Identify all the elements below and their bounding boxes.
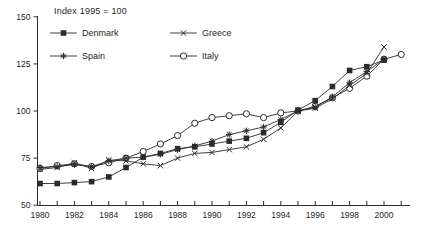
asterisk-icon bbox=[123, 155, 129, 161]
asterisk-icon bbox=[54, 163, 60, 169]
open-circle-icon bbox=[243, 111, 249, 117]
filled-square-icon bbox=[261, 130, 267, 136]
legend-item-denmark: Denmark bbox=[50, 28, 119, 38]
open-circle-icon bbox=[192, 120, 198, 126]
open-circle-icon bbox=[398, 51, 404, 57]
filled-square-icon bbox=[226, 138, 232, 144]
x-tick-label: 1982 bbox=[65, 210, 84, 220]
legend-item-spain: Spain bbox=[50, 51, 105, 61]
x-tick-label: 1980 bbox=[31, 210, 50, 220]
legend-item-greece: Greece bbox=[170, 28, 232, 38]
asterisk-icon bbox=[37, 164, 43, 170]
x-tick-label: 1984 bbox=[99, 210, 118, 220]
x-tick-label: 1998 bbox=[340, 210, 359, 220]
filled-square-icon bbox=[209, 141, 215, 147]
x-cross-icon bbox=[381, 44, 386, 49]
x-tick-label: 2000 bbox=[375, 210, 394, 220]
asterisk-icon bbox=[329, 94, 335, 100]
y-tick-label: 100 bbox=[16, 106, 30, 116]
x-tick-label: 1992 bbox=[237, 210, 256, 220]
filled-square-icon bbox=[244, 136, 250, 142]
filled-square-icon bbox=[312, 98, 318, 104]
asterisk-icon bbox=[71, 161, 77, 167]
asterisk-icon bbox=[226, 131, 232, 137]
filled-square-icon bbox=[158, 151, 164, 157]
asterisk-icon bbox=[88, 163, 94, 169]
filled-square-icon bbox=[37, 181, 43, 187]
series-spain bbox=[37, 56, 387, 171]
asterisk-icon bbox=[260, 124, 266, 130]
y-tick-label: 125 bbox=[16, 59, 30, 69]
asterisk-icon bbox=[346, 80, 352, 86]
x-tick-label: 1996 bbox=[306, 210, 325, 220]
x-cross-icon bbox=[175, 155, 180, 160]
filled-square-icon bbox=[123, 165, 129, 171]
asterisk-icon bbox=[60, 53, 66, 59]
y-tick-label: 50 bbox=[21, 200, 31, 210]
legend-item-italy: Italy bbox=[170, 51, 219, 61]
filled-square-icon bbox=[106, 174, 112, 180]
asterisk-icon bbox=[106, 158, 112, 164]
chart-canvas: 5075100125150198019821984198619881990199… bbox=[0, 0, 426, 236]
filled-square-icon bbox=[278, 120, 284, 126]
filled-square-icon bbox=[54, 181, 60, 187]
filled-square-icon bbox=[192, 144, 198, 150]
open-circle-icon bbox=[140, 148, 146, 154]
filled-square-icon bbox=[175, 146, 181, 152]
x-tick-label: 1988 bbox=[168, 210, 187, 220]
x-cross-icon bbox=[261, 137, 266, 142]
x-tick-label: 1994 bbox=[271, 210, 290, 220]
series-line bbox=[40, 47, 384, 169]
chart-container: 5075100125150198019821984198619881990199… bbox=[0, 0, 426, 236]
x-tick-label: 1990 bbox=[203, 210, 222, 220]
y-tick-label: 75 bbox=[21, 153, 31, 163]
filled-square-icon bbox=[330, 84, 336, 90]
x-tick-label: 1986 bbox=[134, 210, 153, 220]
filled-square-icon bbox=[140, 154, 146, 160]
open-circle-icon bbox=[180, 53, 186, 59]
open-circle-icon bbox=[278, 110, 284, 116]
open-circle-icon bbox=[261, 114, 267, 120]
legend-label-denmark: Denmark bbox=[82, 28, 119, 38]
legend-label-spain: Spain bbox=[82, 51, 105, 61]
filled-square-icon bbox=[364, 64, 370, 70]
open-circle-icon bbox=[175, 132, 181, 138]
filled-square-icon bbox=[347, 68, 353, 74]
open-circle-icon bbox=[226, 113, 232, 119]
asterisk-icon bbox=[243, 128, 249, 134]
filled-square-icon bbox=[295, 107, 301, 113]
chart-title: Index 1995 = 100 bbox=[54, 6, 127, 16]
x-cross-icon bbox=[278, 125, 283, 130]
open-circle-icon bbox=[157, 141, 163, 147]
open-circle-icon bbox=[209, 114, 215, 120]
axes bbox=[38, 16, 411, 206]
legend-label-greece: Greece bbox=[202, 28, 232, 38]
filled-square-icon bbox=[381, 57, 387, 63]
legend-label-italy: Italy bbox=[202, 51, 219, 61]
asterisk-icon bbox=[312, 104, 318, 110]
y-tick-label: 150 bbox=[16, 12, 30, 22]
series-greece bbox=[37, 44, 386, 172]
filled-square-icon bbox=[61, 30, 67, 36]
filled-square-icon bbox=[72, 180, 78, 186]
series-line bbox=[40, 59, 384, 167]
filled-square-icon bbox=[89, 179, 95, 185]
